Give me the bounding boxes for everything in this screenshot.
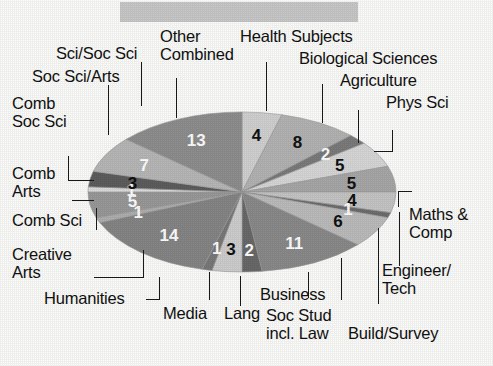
leader-line-creative-arts-v xyxy=(143,250,144,278)
callout-biological-sciences: Biological Sciences xyxy=(299,50,437,67)
leader-line-other-combined xyxy=(176,78,177,118)
leader-line-biological-sciences xyxy=(322,84,323,123)
callout-media: Media xyxy=(163,305,207,322)
leader-line-soc-sci-arts xyxy=(108,85,109,135)
leader-line-soc-stud-v xyxy=(341,258,342,300)
pie-slice-value: 1 xyxy=(343,200,352,219)
pie-slice-value: 1 xyxy=(212,239,221,258)
callout-comp: Comp xyxy=(409,224,452,240)
callout-lang: Lang xyxy=(224,305,260,322)
leader-line-sci-soc-sci xyxy=(141,62,142,106)
callout-comb-arts-line2: Arts xyxy=(12,183,41,199)
pie-slice-value: 7 xyxy=(139,156,148,175)
pie-slice-value: 6 xyxy=(333,212,342,231)
leader-line-build-survey xyxy=(378,228,379,304)
callout-agriculture: Agriculture xyxy=(340,72,417,89)
pie-slice-value: 3 xyxy=(128,174,137,193)
callout-soc-sci-arts: Soc Sci/Arts xyxy=(32,68,119,85)
leader-line-agriculture xyxy=(358,110,359,143)
leader-line-maths-comp-v xyxy=(398,192,399,207)
callout-arts: Arts xyxy=(12,264,41,280)
pie-slice-value: 8 xyxy=(293,133,302,152)
pie-slice-value: 2 xyxy=(321,145,330,164)
leader-line-comb-soc-sci-v xyxy=(68,156,69,181)
leader-line-phys-sci-v xyxy=(392,130,393,152)
leader-line-humanities-h xyxy=(146,299,160,300)
callout-comb-sci: Comb Sci xyxy=(12,212,82,229)
callout-incl-law: incl. Law xyxy=(266,325,328,341)
callout-business: Business xyxy=(260,286,325,303)
callout-comb: Comb xyxy=(12,95,55,111)
pie-slice-value: 11 xyxy=(285,234,303,253)
callout-creative: Creative xyxy=(12,246,72,262)
callout-soc-stud: Soc Stud xyxy=(266,307,331,323)
leader-line-media xyxy=(209,272,210,300)
leader-line-health-subjects xyxy=(266,62,267,111)
pie-slice-value: 13 xyxy=(187,131,206,150)
leader-line-comb-soc-sci-h xyxy=(68,180,94,181)
leader-line-comb-sci xyxy=(96,208,97,230)
callout-humanities: Humanities xyxy=(44,290,125,307)
callout-soc-sci: Soc Sci xyxy=(12,113,67,129)
callout-combined: Combined xyxy=(160,46,234,63)
callout-maths: Maths & xyxy=(409,206,468,222)
callout-engineer: Engineer/ xyxy=(382,262,451,278)
callout-health-subjects: Health Subjects xyxy=(240,28,353,45)
pie-slice-value: 14 xyxy=(159,226,178,245)
pie-slice-value: 4 xyxy=(252,126,262,145)
pie-slice-value: 5 xyxy=(335,156,344,175)
callout-comb-arts-line1: Comb xyxy=(12,165,55,181)
pie-slice-value: 2 xyxy=(245,241,254,260)
leader-line-lang xyxy=(240,276,241,306)
callout-build-survey: Build/Survey xyxy=(348,325,438,342)
leader-line-comb-arts xyxy=(72,200,94,201)
callout-sci-soc-sci: Sci/Soc Sci xyxy=(56,45,137,62)
callout-tech: Tech xyxy=(382,280,416,296)
leader-line-humanities-v xyxy=(159,277,160,300)
leader-line-engineer-tech xyxy=(399,212,400,266)
pie-slice-value: 3 xyxy=(226,240,235,259)
leader-line-creative-arts xyxy=(94,277,144,278)
callout-other: Other xyxy=(160,28,200,45)
leader-line-phys-sci-h xyxy=(374,151,393,152)
pie-chart-figure: 4825541611231141513713 Sci/Soc Sci Other… xyxy=(0,0,493,366)
callout-phys-sci: Phys Sci xyxy=(386,94,449,111)
leader-line-maths-comp-h xyxy=(398,191,412,192)
